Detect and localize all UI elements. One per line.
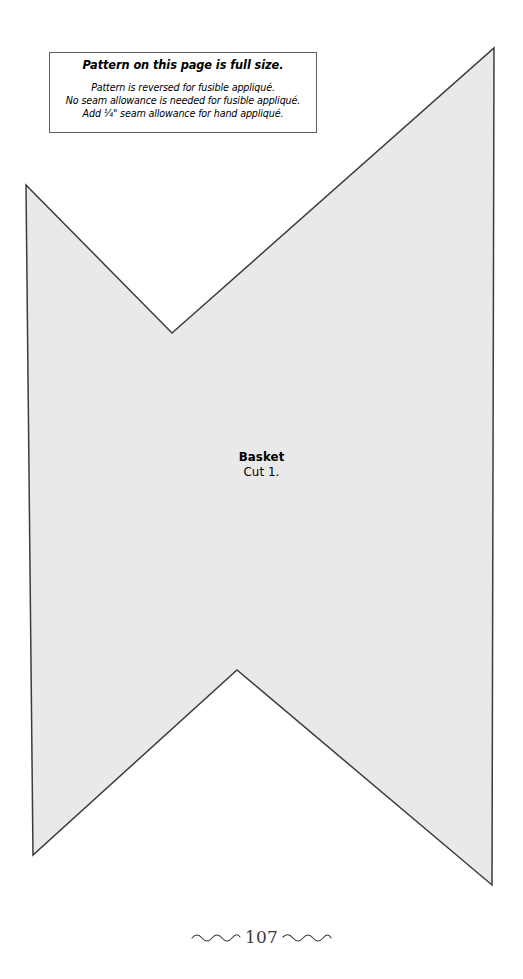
note-line-3: Add ¼" seam allowance for hand appliqué.	[66, 107, 300, 120]
page-number: 107	[245, 928, 278, 946]
note-body: Pattern is reversed for fusible appliqué…	[66, 81, 300, 121]
basket-pattern-shape	[0, 0, 523, 979]
note-line-1: Pattern is reversed for fusible appliqué…	[66, 81, 300, 94]
pattern-page: Pattern on this page is full size. Patte…	[0, 0, 523, 979]
wavy-line-ornament-left-icon	[190, 930, 242, 944]
wavy-line-ornament-right-icon	[281, 930, 333, 944]
instruction-note-box: Pattern on this page is full size. Patte…	[49, 52, 317, 133]
note-line-2: No seam allowance is needed for fusible …	[66, 94, 300, 107]
note-title: Pattern on this page is full size.	[83, 58, 284, 72]
basket-outline-polygon	[26, 48, 494, 885]
page-footer: 107	[0, 928, 523, 946]
